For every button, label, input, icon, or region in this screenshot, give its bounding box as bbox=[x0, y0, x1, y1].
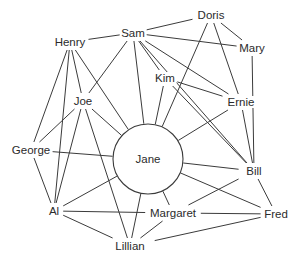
node-label-bill[interactable]: Bill bbox=[245, 165, 263, 177]
network-diagram: DorisSamMaryHenryKimJoeErnieGeorgeJaneBi… bbox=[0, 0, 299, 267]
node-label-kim[interactable]: Kim bbox=[154, 72, 177, 84]
node-label-sam[interactable]: Sam bbox=[120, 27, 147, 39]
edge-margaret-fred bbox=[201, 213, 261, 214]
node-label-fred[interactable]: Fred bbox=[263, 208, 290, 220]
edge-lillian-fred bbox=[155, 217, 261, 240]
node-label-lillian[interactable]: Lillian bbox=[114, 240, 146, 252]
node-label-ernie[interactable]: Ernie bbox=[226, 96, 256, 108]
network-graph-canvas bbox=[0, 0, 299, 267]
edge-sam-joe bbox=[89, 41, 127, 93]
edge-margaret-lillian bbox=[140, 221, 162, 238]
node-label-jane[interactable]: Jane bbox=[134, 153, 162, 165]
edge-ernie-bill bbox=[243, 110, 253, 163]
edge-sam-mary bbox=[145, 35, 236, 47]
edge-doris-mary bbox=[221, 23, 242, 40]
node-label-joe[interactable]: Joe bbox=[72, 95, 94, 107]
edge-jane-fred bbox=[181, 173, 261, 207]
node-label-henry[interactable]: Henry bbox=[53, 36, 87, 48]
edge-al-lillian bbox=[63, 215, 112, 238]
edge-sam-kim bbox=[139, 41, 160, 70]
edge-sam-doris bbox=[145, 19, 192, 30]
edge-george-al bbox=[34, 158, 51, 203]
node-label-doris[interactable]: Doris bbox=[196, 9, 226, 21]
node-label-george[interactable]: George bbox=[10, 144, 51, 156]
edge-jane-lillian bbox=[132, 194, 141, 238]
edge-jane-margaret bbox=[163, 191, 169, 205]
edge-mary-bill bbox=[252, 56, 254, 163]
edge-joe-george bbox=[39, 109, 74, 142]
edge-kim-ernie bbox=[177, 82, 222, 96]
edge-bill-fred bbox=[258, 179, 272, 206]
node-label-mary[interactable]: Mary bbox=[238, 42, 267, 54]
edge-al-margaret bbox=[63, 211, 145, 212]
edge-sam-jane bbox=[134, 41, 144, 124]
node-label-margaret[interactable]: Margaret bbox=[148, 207, 197, 219]
edge-jane-al bbox=[63, 176, 117, 206]
edge-margaret-bill bbox=[188, 179, 238, 205]
edge-kim-jane bbox=[155, 86, 163, 124]
edge-george-jane bbox=[53, 152, 113, 157]
node-label-al[interactable]: Al bbox=[47, 205, 60, 217]
edge-jane-bill bbox=[183, 163, 238, 169]
edge-sam-henry bbox=[89, 35, 121, 40]
